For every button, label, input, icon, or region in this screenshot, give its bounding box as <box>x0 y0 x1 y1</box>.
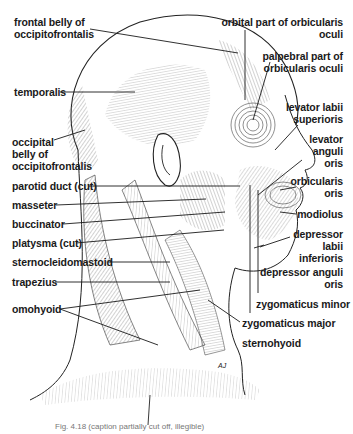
label-zygomaticus-major: zygomaticus major <box>242 317 335 329</box>
label-line: occipitofrontalis <box>14 28 94 40</box>
label-line: temporalis <box>14 86 66 98</box>
label-line: sternocleidomastoid <box>12 256 113 268</box>
label-line: depressor <box>293 228 343 240</box>
label-line: orbital part of orbicularis <box>221 16 343 28</box>
label-line: masseter <box>12 199 57 211</box>
label-line: platysma (cut) <box>12 237 82 249</box>
label-orbicularis-oris: orbicularis oris <box>290 175 343 199</box>
label-line: omohyoid <box>12 303 61 315</box>
label-depressor-anguli: depressor anguli oris <box>260 266 343 290</box>
label-orbital-part: orbital part of orbicularis oculi <box>221 16 343 40</box>
label-line: palpebral part of <box>262 50 343 62</box>
label-line: frontal belly of <box>14 16 94 28</box>
label-line: levator labii <box>286 101 343 113</box>
label-line: levator <box>309 133 343 145</box>
artist-signature: AJ <box>218 362 226 369</box>
label-trapezius: trapezius <box>12 276 57 288</box>
label-line: oculi <box>221 28 343 40</box>
figure-caption: Fig. 4.18 (caption partially cut off, il… <box>55 422 204 431</box>
masseter-shape <box>180 171 225 231</box>
label-line: modiolus <box>297 208 343 220</box>
label-line: buccinator <box>12 218 65 230</box>
label-line: oris <box>290 187 343 199</box>
label-parotid-duct: parotid duct (cut) <box>12 180 97 192</box>
label-platysma: platysma (cut) <box>12 237 82 249</box>
label-depressor-labii: depressor labii inferioris <box>293 228 343 264</box>
label-line: depressor anguli <box>260 266 343 278</box>
label-line: occipitofrontalis <box>12 160 92 172</box>
label-levator-labii: levator labii superioris <box>286 101 343 125</box>
label-line: orbicularis oculi <box>262 62 343 74</box>
label-zygomaticus-minor: zygomaticus minor <box>256 298 350 310</box>
label-masseter: masseter <box>12 199 57 211</box>
label-levator-anguli: levator anguli oris <box>309 133 343 169</box>
label-sternocleidomastoid: sternocleidomastoid <box>12 256 113 268</box>
label-line: superioris <box>286 113 343 125</box>
orbicularis-oculi-shape <box>231 103 275 147</box>
label-line: occipital <box>12 136 92 148</box>
label-buccinator: buccinator <box>12 218 65 230</box>
label-modiolus: modiolus <box>297 208 343 220</box>
label-line: trapezius <box>12 276 57 288</box>
label-line: oris <box>260 278 343 290</box>
label-line: inferioris <box>293 252 343 264</box>
label-sternohyoid: sternohyoid <box>242 337 301 349</box>
label-line: anguli <box>309 145 343 157</box>
label-line: zygomaticus major <box>242 317 335 329</box>
label-line: oris <box>309 157 343 169</box>
label-frontal-belly: frontal belly of occipitofrontalis <box>14 16 94 40</box>
temporalis-shape <box>105 64 210 145</box>
label-line: sternohyoid <box>242 337 301 349</box>
label-line: belly of <box>12 148 92 160</box>
label-palpebral-part: palpebral part of orbicularis oculi <box>262 50 343 74</box>
label-temporalis: temporalis <box>14 86 66 98</box>
label-line: parotid duct (cut) <box>12 180 97 192</box>
label-line: labii <box>293 240 343 252</box>
label-line: orbicularis <box>290 175 343 187</box>
label-omohyoid: omohyoid <box>12 303 61 315</box>
label-occipital-belly: occipital belly of occipitofrontalis <box>12 136 92 172</box>
label-line: zygomaticus minor <box>256 298 350 310</box>
